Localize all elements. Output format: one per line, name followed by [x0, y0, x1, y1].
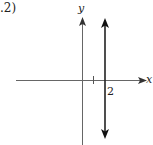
x-axis-label: x — [146, 74, 152, 85]
vertical-line-x-equals-2 — [101, 18, 109, 139]
coordinate-plane — [0, 0, 153, 145]
problem-number-label: .2) — [0, 2, 16, 14]
graph-figure: .2) y x 2 — [0, 0, 153, 145]
x-axis — [16, 77, 147, 84]
x-intercept-label: 2 — [107, 86, 114, 97]
y-axis-label: y — [78, 3, 84, 14]
